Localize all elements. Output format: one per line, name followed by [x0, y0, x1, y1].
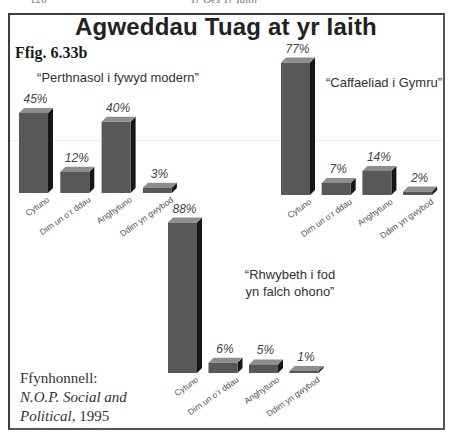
chart-3-bar-3: [249, 364, 278, 373]
chart-1-bar-4-top: [143, 183, 177, 188]
chart-1-bar-2: [60, 172, 89, 193]
chart-3-category-label-3: Anghytuno: [242, 374, 281, 406]
chart-3-category-label-1: Cytuno: [172, 374, 200, 398]
chart-2-bar-3-side: [391, 166, 396, 195]
chart-3-bar-3-top: [249, 359, 283, 364]
chart-3-bar-1-top: [168, 218, 202, 223]
chart-3-bar-4: [290, 371, 319, 373]
chart-2-value-label-1: 77%: [285, 42, 309, 56]
chart-1-bar-1-side: [48, 108, 53, 193]
chart-1-category-label-1: Cytuno: [23, 194, 51, 218]
chart-1-value-label-1: 45%: [23, 92, 47, 106]
chart-2-bar-3: [362, 171, 391, 195]
chart-3-bar-1-side: [197, 218, 202, 373]
chart-3-bar-4-top: [290, 366, 324, 371]
chart-2-bar-2-top: [322, 178, 356, 183]
chart-2-value-label-3: 14%: [367, 150, 391, 164]
chart-1-bar-2-top: [60, 167, 94, 172]
chart-1-value-label-2: 12%: [65, 151, 89, 165]
chart-3-bar-1: [168, 223, 197, 373]
chart-3-bar-2-top: [209, 358, 243, 363]
chart-1-value-label-4: 3%: [151, 167, 169, 181]
chart-3-value-label-1: 88%: [172, 202, 196, 216]
chart-2-value-label-4: 2%: [410, 171, 429, 185]
chart-2-bar-1: [281, 63, 310, 195]
chart-1-value-label-3: 40%: [106, 101, 130, 115]
chart-2-category-label-1: Cytuno: [285, 196, 313, 220]
chart-3-bar-2: [209, 363, 238, 373]
chart-1-bar-3: [102, 122, 131, 193]
bar-charts: 45%Cytuno12%Dim un o’r ddau40%Anghytuno3…: [0, 0, 452, 444]
chart-2-bar-2: [322, 183, 351, 195]
chart-2-category-label-3: Anghytuno: [356, 196, 395, 228]
chart-2-bar-4: [403, 192, 432, 195]
chart-1-bar-3-top: [102, 117, 136, 122]
chart-3-value-label-4: 1%: [297, 350, 315, 364]
chart-2-bar-3-top: [362, 166, 396, 171]
chart-3-value-label-2: 6%: [216, 342, 234, 356]
chart-1-category-label-3: Anghytuno: [95, 194, 134, 226]
chart-3-value-label-3: 5%: [257, 343, 275, 357]
chart-1-bar-1: [19, 113, 48, 193]
chart-2-value-label-2: 7%: [330, 162, 348, 176]
chart-2-bar-1-side: [310, 58, 315, 195]
chart-1-bar-3-side: [131, 117, 136, 193]
chart-2-bar-1-top: [281, 58, 315, 63]
chart-1-bar-1-top: [19, 108, 53, 113]
chart-2-bar-4-top: [403, 187, 437, 192]
chart-1-bar-4: [143, 188, 172, 193]
